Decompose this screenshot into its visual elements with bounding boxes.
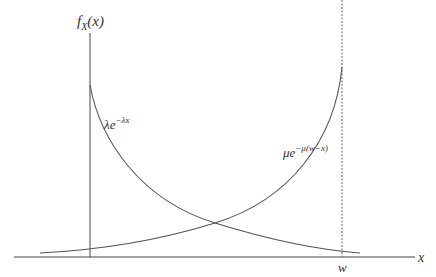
x-axis-label: x — [417, 250, 425, 265]
w-tick-label: w — [338, 260, 347, 275]
curve-mu-exp — [40, 67, 342, 253]
curve-mu-label: μe−μ(w−x) — [282, 143, 328, 160]
y-axis-label: fX(x) — [77, 13, 104, 32]
curve-lambda-exp — [90, 85, 360, 253]
curve-lambda-label: λe−λx — [103, 115, 129, 132]
density-diagram: fX(x) λe−λx μe−μ(w−x) x w — [0, 0, 436, 277]
